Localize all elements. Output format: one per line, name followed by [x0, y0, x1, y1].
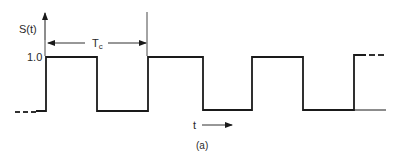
x-axis-label: t: [193, 119, 196, 131]
square-wave-diagram: S(t) 1.0 Tc t (a): [0, 0, 399, 159]
period-label: Tc: [92, 37, 103, 51]
y-level-label: 1.0: [27, 51, 42, 63]
square-waveform: [36, 55, 366, 111]
period-label-subscript: c: [99, 42, 103, 51]
figure-caption: (a): [196, 140, 208, 151]
y-axis-label: S(t): [19, 23, 37, 35]
